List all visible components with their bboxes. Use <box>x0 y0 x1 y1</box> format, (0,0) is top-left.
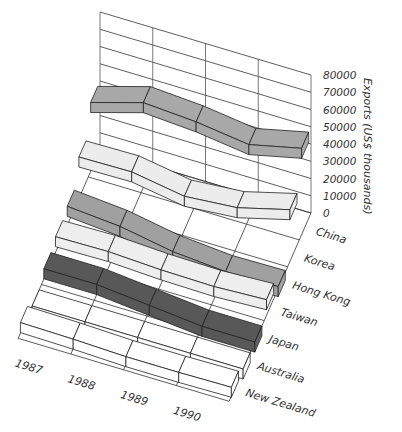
value-axis-title: Exports (US$ thousands) <box>361 78 374 215</box>
country-axis-labels: ChinaKoreaHong KongTaiwanJapanAustraliaN… <box>244 225 352 420</box>
country-label: Taiwan <box>279 306 319 330</box>
value-tick-label: 40000 <box>323 138 357 150</box>
country-label: Japan <box>266 332 301 354</box>
value-tick-label: 60000 <box>323 104 357 116</box>
year-label: 1990 <box>172 404 203 425</box>
value-tick-label: 50000 <box>323 121 357 133</box>
value-tick-label: 0 <box>323 207 330 219</box>
year-label: 1989 <box>119 388 150 409</box>
value-tick-label: 80000 <box>323 69 357 81</box>
country-label: China <box>314 225 348 247</box>
ribbon-chart: 0100002000030000400005000060000700008000… <box>0 0 402 432</box>
country-label: Korea <box>303 252 337 274</box>
year-label: 1988 <box>66 372 97 393</box>
ribbons <box>20 86 308 397</box>
country-label: New Zealand <box>244 386 318 420</box>
country-label: Australia <box>255 359 307 386</box>
year-label: 1987 <box>14 357 45 378</box>
value-tick-label: 30000 <box>323 155 357 167</box>
value-tick-label: 10000 <box>323 190 357 202</box>
country-label: Hong Kong <box>291 279 352 309</box>
value-axis-ticks: 0100002000030000400005000060000700008000… <box>323 69 357 219</box>
value-tick-label: 70000 <box>323 86 357 98</box>
value-tick-label: 20000 <box>323 173 357 185</box>
